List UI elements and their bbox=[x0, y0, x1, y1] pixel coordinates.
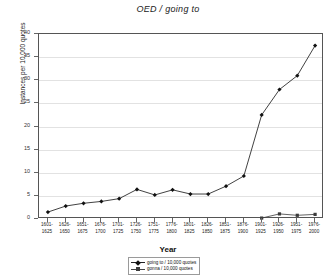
data-point-marker bbox=[46, 210, 50, 214]
data-point-marker bbox=[242, 174, 246, 178]
x-tick-label: 1976-2000 bbox=[301, 221, 327, 235]
series-layer bbox=[39, 34, 324, 219]
data-point-marker bbox=[64, 204, 68, 208]
data-point-marker bbox=[170, 188, 174, 192]
legend: going to / 10,000 quotesgonna / 10,000 q… bbox=[128, 257, 200, 275]
y-axis-tick-marks bbox=[0, 33, 38, 218]
data-point-marker bbox=[313, 43, 317, 47]
data-point-marker bbox=[224, 184, 228, 188]
data-point-marker bbox=[153, 193, 157, 197]
legend-item: going to / 10,000 quotes bbox=[131, 260, 196, 266]
plot-area bbox=[38, 33, 323, 218]
data-point-marker bbox=[99, 199, 103, 203]
chart-title: OED / going to bbox=[0, 4, 336, 14]
data-point-marker bbox=[188, 192, 192, 196]
data-point-marker bbox=[206, 192, 210, 196]
data-point-marker bbox=[81, 201, 85, 205]
legend-marker-icon bbox=[131, 266, 145, 272]
legend-label: gonna / 10,000 quotes bbox=[147, 266, 193, 272]
x-axis-tick-labels: 1601-16251626-16501651-16751676-17001701… bbox=[38, 221, 323, 243]
data-point-marker bbox=[117, 197, 121, 201]
series-line bbox=[48, 46, 315, 213]
x-axis-title: Year bbox=[0, 245, 336, 254]
data-point-marker bbox=[135, 187, 139, 191]
data-point-marker bbox=[313, 213, 316, 216]
chart-container: OED / going to Instances per 10,000 quot… bbox=[0, 0, 336, 276]
legend-item: gonna / 10,000 quotes bbox=[131, 266, 196, 272]
legend-marker-icon bbox=[131, 260, 145, 266]
data-point-marker bbox=[296, 214, 299, 217]
legend-label: going to / 10,000 quotes bbox=[147, 260, 196, 266]
data-point-marker bbox=[278, 212, 281, 215]
